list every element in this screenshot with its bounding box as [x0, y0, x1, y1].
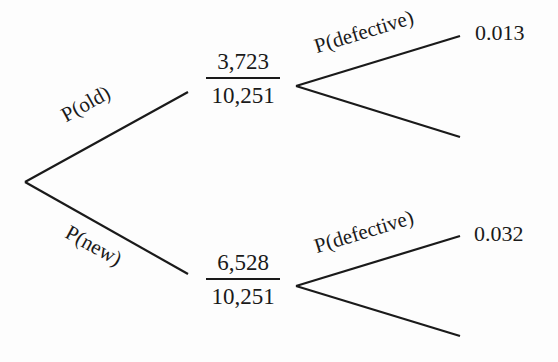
- value-new-defective: 0.032: [474, 223, 524, 245]
- branch-old-not-defective: [296, 86, 460, 137]
- denominator-new: 10,251: [198, 280, 288, 308]
- branch-new-not-defective: [296, 286, 460, 336]
- numerator-old: 3,723: [198, 50, 288, 77]
- value-old-defective: 0.013: [475, 22, 525, 44]
- fraction-new: 6,528 10,251: [198, 251, 288, 308]
- numerator-new: 6,528: [198, 251, 288, 278]
- denominator-old: 10,251: [198, 79, 288, 107]
- fraction-old: 3,723 10,251: [198, 50, 288, 107]
